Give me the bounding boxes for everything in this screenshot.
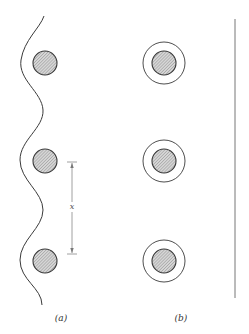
hatched-particle-circle (33, 149, 57, 173)
particles-a (33, 51, 57, 273)
figure-canvas (0, 0, 249, 334)
hatched-particle-circle (152, 249, 176, 273)
hatched-particle-circle (152, 149, 176, 173)
panel-label-b: (b) (175, 313, 188, 323)
panel-label-a: (a) (55, 313, 67, 323)
particles-b (143, 42, 185, 282)
hatched-particle-circle (33, 51, 57, 75)
dimension-label-x: x (70, 202, 75, 212)
panel-a (20, 16, 77, 305)
hatched-particle-circle (33, 249, 57, 273)
panel-b (143, 19, 235, 298)
hatched-particle-circle (152, 51, 176, 75)
